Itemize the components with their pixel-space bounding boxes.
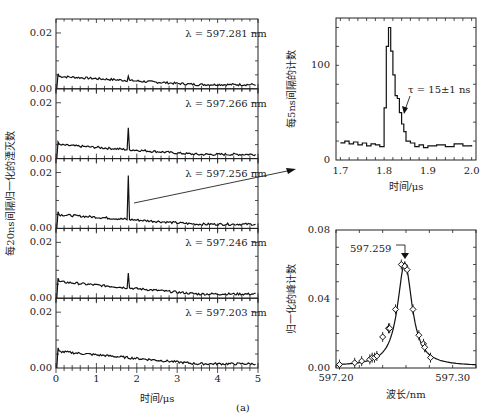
y-tick-label: 0.00 <box>30 292 52 303</box>
x-axis-label: 时间/μs <box>140 392 175 404</box>
y-tick-label: 0.04 <box>308 293 330 304</box>
x-tick-label: 0 <box>53 373 59 384</box>
decay-trace <box>57 175 256 228</box>
y-tick-label: 0.00 <box>30 83 52 94</box>
data-point <box>352 360 358 366</box>
y-tick-label: 0.00 <box>30 362 52 373</box>
y-axis-label: 每20ns间隔归一化的湮灭数 <box>4 131 16 255</box>
x-tick-label: 4 <box>214 373 220 384</box>
x-tick-label: 1 <box>93 373 99 384</box>
y-tick-label: 0.08 <box>308 224 330 235</box>
wavelength-label: λ = 597.203 nm <box>185 307 267 318</box>
x-tick-label: 2 <box>134 373 140 384</box>
decay-panel-3: 0.020.00λ = 597.246 nm <box>30 228 268 303</box>
decay-panel-1: 0.020.00λ = 597.266 nm <box>30 89 268 164</box>
y-axis-label: 归一化的峰计数 <box>285 264 297 334</box>
wavelength-label: λ = 597.256 nm <box>185 168 267 179</box>
lifetime-annotation: τ = 15±1 ns <box>408 84 471 95</box>
data-point <box>416 332 422 338</box>
wavelength-label: λ = 597.266 nm <box>185 98 267 109</box>
data-point <box>410 306 416 312</box>
x-tick-label: 1.8 <box>376 165 392 176</box>
decay-panel-4: 0.020.00λ = 597.203 nm <box>30 298 268 373</box>
x-tick-label: 1.7 <box>332 165 348 176</box>
x-tick-label: 5 <box>255 373 261 384</box>
figure: 0.020.00λ = 597.281 nm0.020.00λ = 597.26… <box>0 0 490 418</box>
arrow-head-icon <box>286 168 296 174</box>
decay-trace <box>57 348 256 368</box>
y-tick-label: 0 <box>324 154 330 165</box>
decay-panel-2: 0.020.00λ = 597.256 nm <box>30 159 268 234</box>
figure-caption: (a) <box>236 402 250 413</box>
data-point <box>359 358 365 364</box>
data-point <box>428 355 434 361</box>
y-tick-label: 0.02 <box>30 167 52 178</box>
y-tick-label: 0.02 <box>30 306 52 317</box>
profile-panel: 0.000.040.08597.20597.30597.259波长/nm归一化的… <box>285 224 476 400</box>
y-tick-label: 0.02 <box>30 27 52 38</box>
x-tick-label: 3 <box>174 373 180 384</box>
y-axis-label: 每5ns间隔的计数 <box>285 50 297 128</box>
zoom-panel: 1.71.81.92.01000τ = 15±1 ns时间/μs每5ns间隔的计… <box>285 18 480 192</box>
x-axis-label: 波长/nm <box>386 388 426 400</box>
x-tick-label: 597.30 <box>435 372 470 383</box>
x-tick-label: 1.9 <box>420 165 436 176</box>
data-point <box>380 334 386 340</box>
x-tick-label: 2.0 <box>464 165 480 176</box>
fit-curve <box>336 263 476 365</box>
data-point <box>337 362 343 368</box>
y-tick-label: 0.00 <box>30 222 52 233</box>
x-tick-label: 597.20 <box>319 372 354 383</box>
arrow-head-icon <box>401 253 409 259</box>
decay-panel-0: 0.020.00λ = 597.281 nm <box>30 19 268 94</box>
arrow-head-icon <box>402 106 408 114</box>
wavelength-label: λ = 597.281 nm <box>185 28 267 39</box>
decay-trace <box>57 273 256 298</box>
y-tick-label: 0.00 <box>30 153 52 164</box>
x-axis-label: 时间/μs <box>389 180 424 192</box>
wavelength-label: λ = 597.246 nm <box>185 237 267 248</box>
y-tick-label: 0.02 <box>30 236 52 247</box>
peak-annotation: 597.259 <box>350 243 391 254</box>
y-tick-label: 0.02 <box>30 97 52 108</box>
decay-trace <box>57 128 256 159</box>
y-tick-label: 100 <box>311 59 330 70</box>
